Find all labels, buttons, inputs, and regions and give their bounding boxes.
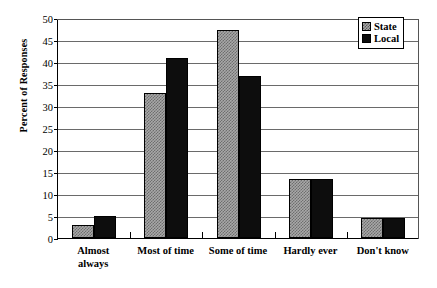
y-tick-label: 45 bbox=[43, 36, 54, 47]
bar-group bbox=[275, 19, 347, 238]
y-tick-label: 10 bbox=[43, 190, 54, 201]
x-axis-labels: AlmostalwaysMost of timeSome of timeHard… bbox=[57, 245, 419, 270]
x-tick-mark bbox=[275, 232, 276, 238]
y-tick-label: 5 bbox=[48, 212, 53, 223]
y-tick-label: 25 bbox=[43, 124, 54, 135]
x-axis-label-line: Some of time bbox=[202, 245, 274, 258]
bar-state bbox=[144, 93, 166, 238]
bar-state bbox=[72, 225, 94, 238]
x-axis-label: Don't know bbox=[347, 245, 419, 270]
bar-groups bbox=[58, 19, 419, 238]
bar-pair bbox=[130, 19, 202, 238]
bar-pair bbox=[347, 19, 419, 238]
y-tick-label: 50 bbox=[43, 14, 54, 25]
x-axis-label: Almostalways bbox=[57, 245, 129, 270]
legend-item-local: Local bbox=[362, 33, 399, 44]
x-axis-label-line: Hardly ever bbox=[274, 245, 346, 258]
bar-local bbox=[166, 58, 188, 238]
x-axis-label: Some of time bbox=[202, 245, 274, 270]
legend-item-state: State bbox=[362, 21, 399, 32]
y-tick-label: 0 bbox=[48, 234, 53, 245]
bar-pair bbox=[58, 19, 130, 238]
x-axis-label-line: Don't know bbox=[347, 245, 419, 258]
legend: State Local bbox=[358, 17, 404, 49]
x-axis-label-line: always bbox=[57, 258, 129, 271]
y-tick-mark bbox=[54, 239, 58, 240]
y-tick-label: 30 bbox=[43, 102, 54, 113]
legend-label-local: Local bbox=[374, 33, 399, 44]
legend-swatch-local-icon bbox=[362, 34, 371, 43]
bar-state bbox=[289, 179, 311, 238]
x-tick-mark bbox=[347, 232, 348, 238]
bar-group bbox=[347, 19, 419, 238]
bar-group bbox=[58, 19, 130, 238]
bar-local bbox=[383, 218, 405, 238]
bar-local bbox=[311, 179, 333, 238]
y-axis-title: Percent of Responses bbox=[18, 11, 29, 161]
plot-area: 50454035302520151050 bbox=[57, 19, 419, 239]
bar-pair bbox=[202, 19, 274, 238]
bar-state bbox=[361, 218, 383, 238]
bar-state bbox=[217, 30, 239, 238]
x-axis-label: Most of time bbox=[129, 245, 201, 270]
x-tick-mark bbox=[202, 232, 203, 238]
bar-pair bbox=[275, 19, 347, 238]
x-tick-mark bbox=[130, 232, 131, 238]
bar-group bbox=[202, 19, 274, 238]
legend-swatch-state-icon bbox=[362, 22, 371, 31]
y-tick-label: 35 bbox=[43, 80, 54, 91]
bar-group bbox=[130, 19, 202, 238]
bar-chart: Percent of Responses 5045403530252015105… bbox=[0, 0, 437, 288]
bar-local bbox=[239, 76, 261, 238]
x-axis-label-line: Most of time bbox=[129, 245, 201, 258]
x-axis-label-line: Almost bbox=[57, 245, 129, 258]
legend-label-state: State bbox=[374, 21, 397, 32]
y-tick-label: 40 bbox=[43, 58, 54, 69]
y-tick-label: 15 bbox=[43, 168, 54, 179]
x-axis-label: Hardly ever bbox=[274, 245, 346, 270]
y-tick-label: 20 bbox=[43, 146, 54, 157]
bar-local bbox=[94, 216, 116, 238]
